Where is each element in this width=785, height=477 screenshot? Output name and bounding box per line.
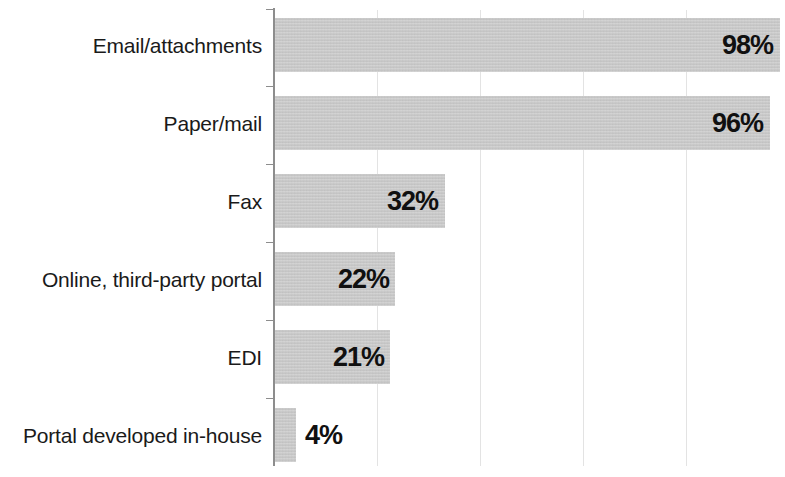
bar-value-label: 21%: [333, 344, 384, 371]
bar-row: Paper/mail 96%: [0, 96, 785, 174]
bar-value-label: 4%: [305, 422, 342, 449]
category-label: Email/attachments: [0, 35, 262, 56]
bar-chart: Email/attachments 98% Paper/mail 96% Fax…: [0, 0, 785, 477]
category-label: Portal developed in-house: [0, 425, 262, 446]
bar-value-label: 32%: [387, 188, 438, 215]
bar-row: Fax 32%: [0, 174, 785, 252]
category-label: EDI: [0, 347, 262, 368]
bar: [275, 408, 296, 462]
bar: [275, 96, 770, 150]
category-label: Fax: [0, 191, 262, 212]
bar: [275, 18, 780, 72]
bar-value-label: 22%: [338, 266, 389, 293]
bar-row: EDI 21%: [0, 330, 785, 408]
bar-row: Email/attachments 98%: [0, 18, 785, 96]
bar-value-label: 98%: [722, 32, 773, 59]
axis-tick-0: [266, 9, 274, 10]
category-label: Online, third-party portal: [0, 269, 262, 290]
bar-row: Online, third-party portal 22%: [0, 252, 785, 330]
category-label: Paper/mail: [0, 113, 262, 134]
bar-row: Portal developed in-house 4%: [0, 408, 785, 477]
bar-value-label: 96%: [712, 110, 763, 137]
